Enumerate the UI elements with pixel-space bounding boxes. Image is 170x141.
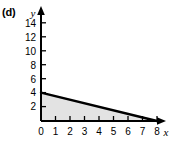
x-tick-label: 2 — [67, 126, 73, 137]
y-tick-label: 6 — [30, 74, 36, 85]
y-tick-label: 12 — [25, 32, 37, 43]
y-tick-label: 10 — [25, 46, 37, 57]
x-tick-label: 6 — [125, 126, 131, 137]
x-tick-label: 3 — [82, 126, 88, 137]
x-tick-label: 4 — [96, 126, 102, 137]
x-axis-arrow-icon — [157, 117, 166, 125]
y-tick-label: 8 — [30, 60, 36, 71]
x-tick-label: 5 — [111, 126, 117, 137]
y-tick-label: 4 — [30, 87, 36, 98]
figure-panel-d: (d) 14 12 10 8 6 4 2 — [0, 0, 170, 141]
x-axis-label: x — [163, 126, 169, 138]
x-tick-label: 8 — [154, 126, 160, 137]
plot-area: 14 12 10 8 6 4 2 0 1 2 3 4 5 6 — [0, 0, 170, 141]
y-axis-arrow-icon — [37, 6, 45, 15]
x-tick-label: 7 — [140, 126, 146, 137]
x-axis-tick-labels: 0 1 2 3 4 5 6 7 8 — [38, 126, 160, 137]
x-tick-label: 1 — [53, 126, 59, 137]
y-tick-label: 2 — [30, 101, 36, 112]
y-axis-label: y — [30, 7, 36, 19]
y-tick-label: 14 — [25, 18, 37, 29]
y-axis-tick-labels: 14 12 10 8 6 4 2 — [25, 18, 37, 113]
x-tick-label: 0 — [38, 126, 44, 137]
